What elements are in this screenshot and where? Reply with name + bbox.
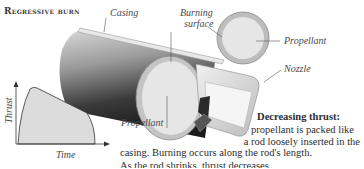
caption-continued: casing. Burning occurs along the rod's l…	[120, 147, 364, 168]
caption-line-3: casing. Burning occurs along the rod's l…	[120, 147, 364, 160]
label-nozzle: Nozzle	[284, 63, 311, 74]
label-casing: Casing	[110, 7, 138, 18]
graph-y-axis-label: Thrust	[3, 97, 14, 123]
caption-line-4: As the rod shrinks, thrust decreases.	[120, 160, 364, 169]
caption-line-1: propellant is packed like	[100, 124, 360, 137]
label-burning-surface-line1: Burning	[180, 7, 213, 18]
caption-heading: Decreasing thrust:	[100, 111, 360, 124]
graph-x-axis-label: Time	[56, 149, 75, 160]
label-propellant-cross-section: Propellant	[284, 35, 326, 46]
label-burning-surface-line2: surface	[184, 18, 213, 29]
caption: Decreasing thrust: propellant is packed …	[100, 111, 360, 149]
cross-section-circle	[217, 12, 269, 64]
diagram-title: Regressive burn	[4, 6, 80, 16]
